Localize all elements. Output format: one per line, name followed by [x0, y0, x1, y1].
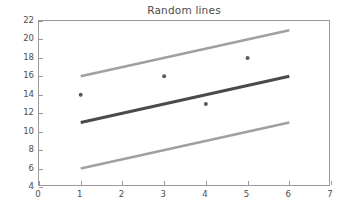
y-tick-label: 16	[4, 70, 34, 80]
x-tick-mark	[248, 181, 249, 185]
y-tick-mark	[39, 113, 43, 114]
x-tick-mark	[122, 181, 123, 185]
x-tick-mark	[289, 181, 290, 185]
y-tick-mark	[39, 76, 43, 77]
y-tick-mark	[39, 39, 43, 40]
chart-title: Random lines	[38, 4, 330, 16]
y-tick-label: 18	[4, 52, 34, 62]
y-tick-label: 10	[4, 126, 34, 136]
x-tick-label: 0	[23, 189, 53, 199]
x-tick-mark	[39, 181, 40, 185]
x-tick-label: 3	[148, 189, 178, 199]
x-tick-label: 2	[106, 189, 136, 199]
x-tick-label: 4	[190, 189, 220, 199]
x-tick-label: 1	[65, 189, 95, 199]
y-tick-mark	[39, 132, 43, 133]
x-tick-label: 7	[315, 189, 345, 199]
y-tick-mark	[39, 95, 43, 96]
data-point-marker	[79, 93, 83, 97]
plot-area	[39, 21, 329, 185]
x-tick-label: 5	[232, 189, 262, 199]
y-tick-label: 20	[4, 33, 34, 43]
data-point-marker	[162, 74, 166, 78]
y-tick-mark	[39, 21, 43, 22]
x-tick-mark	[81, 181, 82, 185]
y-tick-label: 22	[4, 15, 34, 25]
series-line	[81, 122, 290, 168]
chart-screenshot: Random lines 46810121416182022 01234567	[0, 0, 348, 214]
x-axis-tick-labels: 01234567	[38, 189, 330, 203]
plot-svg	[39, 21, 331, 187]
data-point-marker	[246, 56, 250, 60]
y-tick-label: 12	[4, 107, 34, 117]
plot-frame	[38, 20, 330, 186]
y-tick-label: 8	[4, 144, 34, 154]
y-tick-mark	[39, 58, 43, 59]
y-tick-label: 14	[4, 89, 34, 99]
data-point-marker	[204, 102, 208, 106]
y-axis-tick-labels: 46810121416182022	[0, 20, 34, 186]
x-tick-label: 6	[273, 189, 303, 199]
y-tick-label: 6	[4, 163, 34, 173]
series-line	[81, 76, 290, 122]
x-tick-mark	[164, 181, 165, 185]
series-line	[81, 30, 290, 76]
y-tick-mark	[39, 169, 43, 170]
x-tick-mark	[331, 181, 332, 185]
x-tick-mark	[206, 181, 207, 185]
y-tick-mark	[39, 150, 43, 151]
y-tick-mark	[39, 187, 43, 188]
